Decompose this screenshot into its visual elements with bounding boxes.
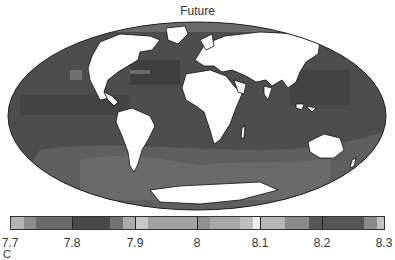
colorbar-tick <box>197 216 198 230</box>
colorbar-unit-label: C <box>3 248 11 260</box>
colorbar-tick-label: 7.8 <box>64 236 81 250</box>
colorbar-tick-label: 8.3 <box>376 236 393 250</box>
colorbar-tick <box>135 216 136 230</box>
colorbar-tick-label: 7.9 <box>127 236 144 250</box>
world-map <box>0 0 395 212</box>
colorbar-tick-label: 8.2 <box>314 236 331 250</box>
colorbar-tick <box>322 216 323 230</box>
colorbar-tick <box>72 216 73 230</box>
colorbar-tick-label: 8.1 <box>252 236 269 250</box>
colorbar-tick-label: 8 <box>194 236 201 250</box>
colorbar-tick <box>260 216 261 230</box>
